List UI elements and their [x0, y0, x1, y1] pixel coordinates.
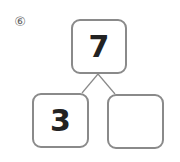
connector-line-left: [82, 74, 98, 93]
part-value-left: 3: [50, 103, 71, 138]
connector-line-right: [98, 74, 115, 94]
part-box-right-blank[interactable]: [107, 94, 164, 149]
whole-box: 7: [71, 19, 127, 74]
part-box-left: 3: [32, 93, 89, 148]
whole-value: 7: [89, 29, 110, 64]
